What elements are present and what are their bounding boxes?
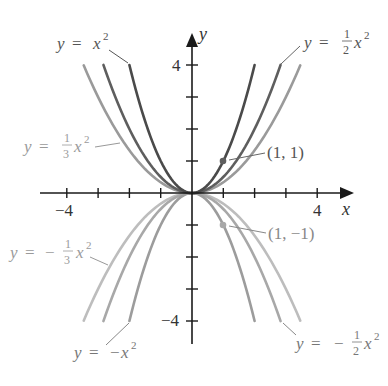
svg-text:2: 2	[131, 339, 137, 351]
svg-text:y: y	[302, 33, 312, 52]
svg-text:2: 2	[103, 30, 109, 42]
svg-text:=: =	[72, 34, 82, 53]
svg-text:x: x	[75, 243, 84, 262]
y-axis-label: y	[197, 24, 207, 44]
leader-neg-half	[283, 323, 296, 335]
svg-text:1: 1	[344, 27, 350, 41]
svg-text:2: 2	[86, 239, 92, 251]
svg-text:2: 2	[374, 330, 380, 342]
svg-text:y: y	[294, 334, 304, 353]
svg-text:=: =	[319, 33, 329, 52]
svg-text:y: y	[72, 343, 82, 362]
svg-text:=: =	[39, 137, 49, 156]
svg-text:y: y	[22, 137, 32, 156]
y-tick-label-4: 4	[172, 56, 181, 75]
svg-text:x: x	[353, 33, 362, 52]
y-tick-label-neg4: −4	[161, 311, 180, 330]
svg-text:−: −	[334, 334, 344, 353]
leader-neg-x2	[106, 323, 129, 345]
leader-half	[281, 46, 300, 64]
svg-text:2: 2	[353, 344, 359, 358]
svg-text:2: 2	[364, 29, 370, 41]
svg-text:−: −	[45, 243, 55, 262]
svg-text:1: 1	[354, 328, 360, 342]
leader-x2	[109, 50, 128, 63]
y-axis-arrow-icon	[186, 33, 198, 47]
x-tick-label-neg4: −4	[55, 201, 74, 220]
svg-text:x: x	[120, 343, 129, 362]
point-label-1-neg1: (1, −1)	[268, 224, 314, 243]
label-y-eq-x2: y = x 2	[55, 30, 109, 53]
svg-text:y: y	[8, 243, 18, 262]
svg-text:x: x	[363, 334, 372, 353]
svg-text:3: 3	[63, 147, 69, 161]
svg-text:2: 2	[343, 43, 349, 57]
label-y-eq-neg-third-x2: y = − 1 3 x 2	[8, 237, 92, 267]
parabola-family-plot: x y −4 4 4 −4 (1, 1) (1, −1) y = x 2 y =…	[0, 0, 388, 386]
svg-text:x: x	[73, 137, 82, 156]
svg-text:−: −	[110, 343, 120, 362]
x-tick-label-4: 4	[313, 201, 322, 220]
svg-text:=: =	[311, 334, 321, 353]
svg-text:1: 1	[64, 131, 70, 145]
label-y-eq-neg-half-x2: y = − 1 2 x 2	[294, 328, 380, 358]
point-1-neg1	[220, 222, 227, 229]
label-y-eq-half-x2: y = 1 2 x 2	[302, 27, 370, 57]
label-y-eq-third-x2: y = 1 3 x 2	[22, 131, 90, 161]
x-axis-label: x	[341, 199, 350, 219]
svg-text:2: 2	[84, 133, 90, 145]
svg-text:=: =	[89, 343, 99, 362]
x-axis-arrow-icon	[340, 187, 354, 199]
axes	[40, 33, 354, 344]
point-1-1	[220, 158, 227, 165]
svg-text:3: 3	[64, 253, 70, 267]
leader-third	[95, 143, 120, 147]
svg-text:y: y	[55, 34, 65, 53]
svg-text:x: x	[92, 34, 101, 53]
leader-lines	[90, 46, 300, 345]
svg-text:=: =	[25, 243, 35, 262]
label-y-eq-neg-x2: y = − x 2	[72, 339, 137, 362]
svg-text:1: 1	[65, 237, 71, 251]
point-label-1-1: (1, 1)	[267, 143, 304, 162]
leader-neg-third	[90, 257, 108, 265]
